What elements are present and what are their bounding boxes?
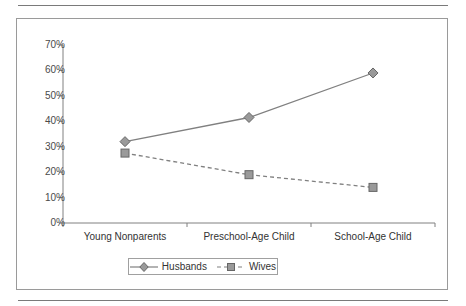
data-point-wives[interactable] xyxy=(245,171,253,179)
y-tick-label: 10% xyxy=(25,193,65,203)
legend-diamond-icon xyxy=(130,261,158,273)
y-axis-tick-labels: 0%10%20%30%40%50%60%70% xyxy=(23,19,65,289)
x-tick-label: School-Age Child xyxy=(303,231,443,242)
data-point-husbands[interactable] xyxy=(120,137,130,147)
x-tick-label: Young Nonparents xyxy=(55,231,195,242)
y-tick-label: 30% xyxy=(25,142,65,152)
y-tick-label: 60% xyxy=(25,65,65,75)
data-point-husbands[interactable] xyxy=(368,68,378,78)
series-line-husbands xyxy=(125,73,373,142)
y-tick-label: 40% xyxy=(25,116,65,126)
data-point-wives[interactable] xyxy=(369,183,377,191)
legend-item-wives[interactable]: Wives xyxy=(217,261,276,273)
series-layer xyxy=(120,68,378,191)
y-tick-label: 20% xyxy=(25,167,65,177)
figure-page: 0%10%20%30%40%50%60%70% Young Nonparents… xyxy=(0,0,466,306)
x-tick-label: Preschool-Age Child xyxy=(179,231,319,242)
line-chart-plot xyxy=(17,19,447,289)
chart-frame: 0%10%20%30%40%50%60%70% Young Nonparents… xyxy=(16,18,448,290)
y-tick-label: 0% xyxy=(25,218,65,228)
x-axis-tick-marks xyxy=(63,223,435,227)
data-point-wives[interactable] xyxy=(121,149,129,157)
data-point-husbands[interactable] xyxy=(244,112,254,122)
y-tick-label: 50% xyxy=(25,91,65,101)
legend-item-husbands[interactable]: Husbands xyxy=(130,261,207,273)
legend-label-wives: Wives xyxy=(249,261,276,272)
legend-label-husbands: Husbands xyxy=(162,261,207,272)
top-divider-rule xyxy=(18,5,448,6)
bottom-divider-rule xyxy=(18,300,448,301)
chart-legend: Husbands Wives xyxy=(128,258,278,275)
y-tick-label: 70% xyxy=(25,40,65,50)
legend-square-icon xyxy=(217,261,245,273)
